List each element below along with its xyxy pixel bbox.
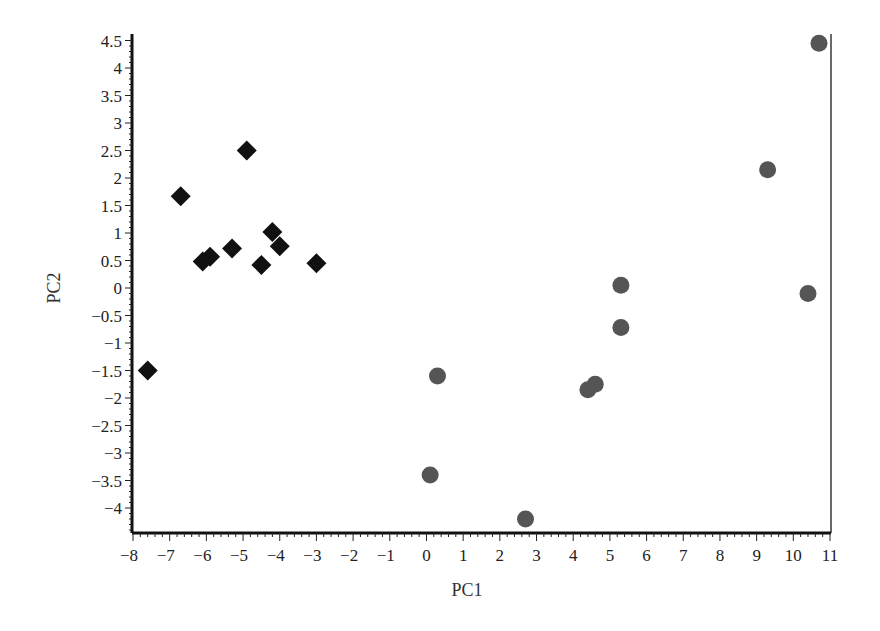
y-tick-label: −4 [104,499,123,518]
plot-frame [132,34,831,533]
y-tick-label: −3 [104,444,122,463]
circle-marker [799,285,816,302]
x-tick-label: 8 [716,546,725,565]
y-axis-title: PC2 [44,272,64,303]
y-tick-label: −1.5 [91,362,122,381]
y-tick-label: 4 [114,59,123,78]
y-axis-ticks: 4.543.532.521.510.50−0.5−1−1.5−2−2.5−3−3… [91,32,132,531]
x-tick-label: −7 [157,546,176,565]
diamond-marker [171,186,191,206]
circle-marker [810,35,827,52]
scatter-plot: −8−7−6−5−4−3−2−101234567891011 4.543.532… [0,0,880,631]
x-tick-label: 3 [532,546,541,565]
x-tick-label: 1 [459,546,468,565]
x-axis-ticks: −8−7−6−5−4−3−2−101234567891011 [120,533,838,565]
y-tick-label: 4.5 [101,32,122,51]
y-tick-label: 0 [114,279,123,298]
circle-marker [612,277,629,294]
y-tick-label: 3 [114,114,123,133]
circle-marker [579,381,596,398]
circle-marker [759,161,776,178]
y-tick-label: −3.5 [91,472,122,491]
circle-marker [429,368,446,385]
diamond-marker [222,238,242,258]
x-tick-label: −6 [193,546,211,565]
y-tick-label: 1 [114,224,123,243]
x-tick-label: 7 [679,546,688,565]
x-tick-label: −1 [377,546,395,565]
diamond-marker [237,141,257,161]
data-points [138,35,828,528]
diamond-marker [306,253,326,273]
diamond-marker [138,361,158,381]
x-tick-label: 0 [422,546,431,565]
x-tick-label: −4 [267,546,286,565]
y-tick-label: −2.5 [91,417,122,436]
x-tick-label: −2 [340,546,358,565]
x-tick-label: 6 [642,546,651,565]
y-tick-label: 3.5 [101,87,122,106]
x-tick-label: 11 [822,546,838,565]
y-tick-label: 2.5 [101,142,122,161]
y-tick-label: 0.5 [101,252,122,271]
diamond-marker [251,255,271,275]
y-tick-label: −0.5 [91,307,122,326]
x-tick-label: 10 [785,546,802,565]
x-tick-label: 2 [496,546,505,565]
circle-marker [612,319,629,336]
x-tick-label: 9 [752,546,761,565]
circle-marker [422,467,439,484]
y-tick-label: 1.5 [101,197,122,216]
circle-marker [517,511,534,528]
y-tick-label: 2 [114,169,123,188]
x-tick-label: 4 [569,546,578,565]
x-tick-label: −8 [120,546,138,565]
x-tick-label: −5 [230,546,248,565]
x-tick-label: 5 [606,546,615,565]
x-axis-title: PC1 [451,580,482,600]
y-tick-label: −1 [104,334,122,353]
x-tick-label: −3 [303,546,321,565]
y-tick-label: −2 [104,389,122,408]
